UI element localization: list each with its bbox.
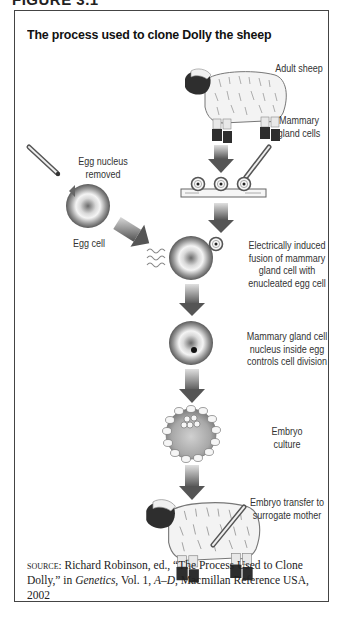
pipette-icon xyxy=(29,147,60,176)
fusion-cell-icon xyxy=(169,236,223,280)
figure-frame: The process used to clone Dolly the shee… xyxy=(14,10,329,602)
arrow-down-icon xyxy=(208,203,234,233)
label-embryo-transfer: Embryo transfer to surrogate mother xyxy=(242,497,332,522)
pipette-icon xyxy=(246,147,269,177)
culture-slide-icon xyxy=(181,178,266,198)
arrow-diagonal-icon xyxy=(110,212,156,254)
nucleus-cell-icon xyxy=(169,321,213,365)
label-egg-nucleus-removed: Egg nucleus removed xyxy=(67,156,139,181)
figure-heading: FIGURE 3.1 xyxy=(12,0,99,8)
arrow-down-icon xyxy=(179,284,205,316)
arrow-down-icon xyxy=(208,145,234,173)
arrow-down-icon xyxy=(179,369,205,403)
label-nucleus-controls-division: Mammary gland cell nucleus inside egg co… xyxy=(242,331,332,369)
egg-cell-icon xyxy=(66,184,110,228)
label-egg-cell: Egg cell xyxy=(62,238,116,251)
arrow-down-icon xyxy=(179,465,205,500)
label-mammary-gland-cells: Mammary gland cells xyxy=(270,115,328,140)
electric-wave-icon xyxy=(147,249,165,267)
label-adult-sheep: Adult sheep xyxy=(270,63,328,76)
embryo-culture-icon xyxy=(163,406,221,463)
source-citation: source: Richard Robinson, ed., “The Proc… xyxy=(27,558,322,603)
label-embryo-culture: Embryo culture xyxy=(258,426,316,451)
source-prefix: source: xyxy=(27,559,62,571)
label-fusion: Electrically induced fusion of mammary g… xyxy=(242,240,332,290)
